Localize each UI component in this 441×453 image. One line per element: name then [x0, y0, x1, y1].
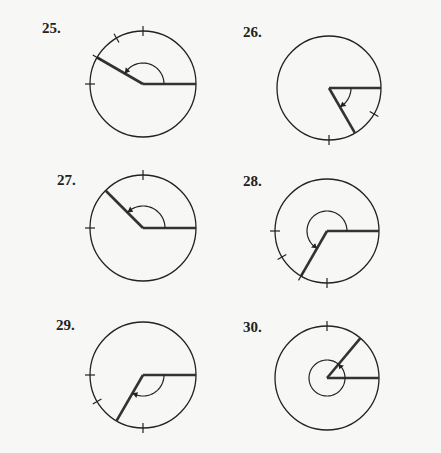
angle-diagram-30	[275, 321, 379, 430]
problem-label-28: 28.	[243, 173, 262, 190]
angle-exercise-figure: 25. 26. 27. 28. 29. 30.	[0, 0, 441, 453]
angle-diagram-25	[85, 26, 196, 137]
angle-arc	[307, 211, 347, 248]
tick-mark	[93, 399, 102, 404]
tick-mark	[93, 55, 102, 60]
problem-label-30: 30.	[243, 319, 262, 336]
angle-arc	[125, 63, 164, 84]
terminal-side-ray	[329, 88, 355, 133]
arrowhead-icon	[133, 392, 139, 398]
terminal-side-ray	[301, 231, 327, 276]
terminal-side-ray	[97, 58, 143, 85]
angle-diagrams	[0, 0, 441, 453]
problem-label-26: 26.	[243, 24, 262, 41]
angle-diagram-26	[277, 36, 381, 145]
terminal-side-ray	[106, 191, 143, 228]
problem-label-25: 25.	[42, 20, 61, 37]
arrowhead-icon	[127, 207, 133, 213]
problem-label-29: 29.	[56, 317, 75, 334]
terminal-side-ray	[117, 375, 144, 421]
angle-diagram-29	[85, 322, 196, 433]
angle-diagram-28	[270, 179, 379, 288]
tick-mark	[299, 272, 304, 281]
tick-mark	[114, 34, 119, 43]
tick-mark	[370, 112, 379, 117]
arrowhead-icon	[339, 364, 344, 369]
tick-mark	[278, 255, 287, 260]
angle-diagram-27	[85, 170, 196, 281]
problem-label-27: 27.	[57, 172, 76, 189]
